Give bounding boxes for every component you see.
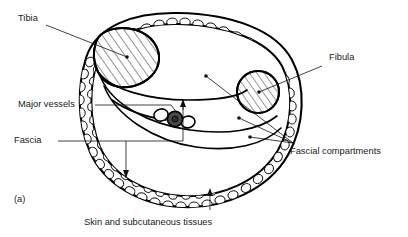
figure-container: Tibia Fibula Major vessels Fascia Fascia… bbox=[0, 0, 408, 237]
label-major-vessels: Major vessels bbox=[18, 99, 75, 109]
artery-lumen bbox=[172, 116, 178, 122]
major-vessels-bundle bbox=[153, 107, 196, 129]
panel-label: (a) bbox=[14, 194, 25, 204]
leg-cross-section-diagram: Tibia Fibula Major vessels Fascia Fascia… bbox=[0, 0, 408, 237]
label-skin-subcutaneous: Skin and subcutaneous tissues bbox=[84, 217, 213, 227]
label-tibia: Tibia bbox=[18, 13, 39, 23]
label-fibula: Fibula bbox=[329, 52, 355, 62]
tibia-bone bbox=[88, 20, 170, 98]
label-fascial-compartments: Fascial compartments bbox=[290, 146, 381, 156]
label-fascia: Fascia bbox=[14, 135, 42, 145]
